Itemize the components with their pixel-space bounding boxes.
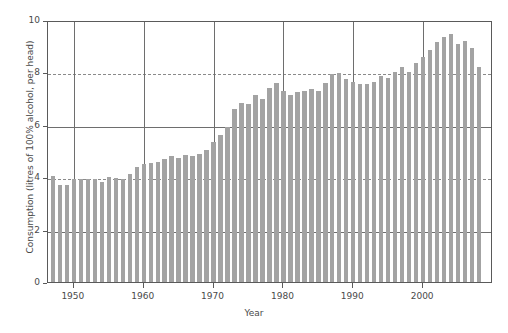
x-axis-title: Year — [0, 308, 508, 318]
y-tick-label: 0 — [16, 277, 40, 287]
y-tick-label: 6 — [16, 120, 40, 130]
bar — [470, 48, 474, 282]
bar — [428, 50, 432, 282]
bar — [239, 103, 243, 282]
bar — [435, 42, 439, 282]
bar-chart: Consumption (litres of 100% alcohol, per… — [0, 0, 508, 333]
bar — [295, 92, 299, 282]
bar — [372, 82, 376, 282]
bar — [204, 150, 208, 282]
y-tick-label: 8 — [16, 67, 40, 77]
bar — [211, 142, 215, 282]
bar — [323, 83, 327, 282]
bar — [351, 82, 355, 282]
bar — [449, 34, 453, 282]
y-tick-label: 4 — [16, 172, 40, 182]
bar-series — [48, 22, 491, 282]
y-tick-mark — [43, 283, 47, 284]
bar — [149, 163, 153, 282]
bar — [156, 162, 160, 282]
x-tick-mark — [73, 283, 74, 288]
x-tick-label: 1960 — [123, 291, 163, 301]
bar — [121, 179, 125, 282]
bar — [183, 155, 187, 282]
bar — [225, 127, 229, 282]
bar — [281, 91, 285, 282]
y-tick-label: 2 — [16, 225, 40, 235]
bar — [176, 158, 180, 282]
bar — [407, 72, 411, 282]
x-tick-mark — [143, 283, 144, 288]
bar — [135, 167, 139, 282]
bar — [421, 57, 425, 282]
bar — [65, 185, 69, 282]
bar — [218, 135, 222, 282]
x-tick-mark — [352, 283, 353, 288]
x-tick-label: 1950 — [53, 291, 93, 301]
bar — [93, 179, 97, 282]
bar — [169, 156, 173, 282]
x-tick-label: 1970 — [193, 291, 233, 301]
bar — [79, 179, 83, 282]
bar — [337, 73, 341, 282]
x-tick-mark — [213, 283, 214, 288]
bar — [197, 154, 201, 282]
bar — [232, 109, 236, 282]
bar — [267, 88, 271, 282]
bar — [190, 156, 194, 282]
bar — [463, 41, 467, 282]
bar — [162, 159, 166, 282]
bar — [72, 179, 76, 282]
bar — [86, 179, 90, 282]
bar — [414, 63, 418, 282]
x-tick-mark — [422, 283, 423, 288]
bar — [442, 37, 446, 282]
bar — [365, 84, 369, 282]
bar — [386, 78, 390, 282]
bar — [400, 67, 404, 282]
bar — [393, 72, 397, 282]
bar — [316, 91, 320, 282]
y-tick-label: 10 — [16, 15, 40, 25]
bar — [58, 185, 62, 282]
bar — [344, 79, 348, 282]
bar — [274, 83, 278, 282]
bar — [260, 99, 264, 282]
y-axis-title: Consumption (litres of 100% alcohol, per… — [25, 12, 35, 282]
bar — [51, 176, 55, 282]
bar — [309, 89, 313, 282]
bar — [288, 95, 292, 282]
bar — [100, 182, 104, 282]
x-tick-label: 2000 — [402, 291, 442, 301]
x-tick-label: 1980 — [262, 291, 302, 301]
y-axis-title-container: Consumption (litres of 100% alcohol, per… — [0, 0, 20, 285]
bar — [128, 174, 132, 282]
bar — [107, 177, 111, 282]
plot-area — [47, 21, 492, 283]
bar — [456, 44, 460, 282]
bar — [477, 67, 481, 282]
bar — [246, 104, 250, 282]
bar — [142, 164, 146, 282]
bar — [253, 95, 257, 282]
bar — [114, 178, 118, 282]
bar — [358, 84, 362, 282]
bar — [330, 74, 334, 282]
x-tick-label: 1990 — [332, 291, 372, 301]
bar — [302, 91, 306, 282]
x-tick-mark — [282, 283, 283, 288]
bar — [379, 76, 383, 282]
